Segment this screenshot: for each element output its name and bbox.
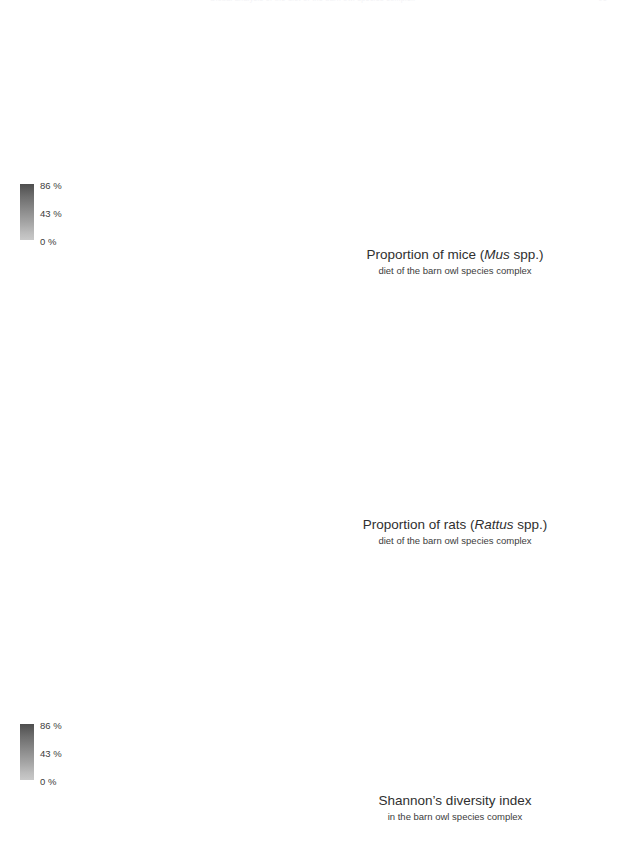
caption-title-genus: Rattus (475, 517, 514, 532)
caption-subtitle: diet of the barn owl species complex (295, 265, 615, 277)
caption-title: Proportion of rats (Rattus spp.) (295, 517, 615, 534)
caption-title: Proportion of mice (Mus spp.) (295, 247, 615, 264)
running-header: Global analysis of the diet of the barn … (0, 0, 625, 2)
page-folio: 91 (598, 0, 607, 2)
caption-title-genus: Mus (484, 247, 510, 262)
caption-title-suffix: spp.) (510, 247, 544, 262)
caption-title: Shannon’s diversity index (295, 793, 615, 810)
legend-tick-min: 0 % (40, 237, 56, 247)
figure-page: Global analysis of the diet of the barn … (0, 0, 625, 861)
caption-subtitle: diet of the barn owl species complex (295, 535, 615, 547)
caption-shannon: Shannon’s diversity index in the barn ow… (295, 793, 615, 823)
caption-rats: Proportion of rats (Rattus spp.) diet of… (295, 517, 615, 547)
world-map-mice (0, 25, 625, 275)
legend-tick-mid: 43 % (40, 209, 62, 219)
panel-shannon: 3.3 1.8 0.3 Shannon’s diversity index in… (0, 565, 625, 825)
legend-tick-max: 86 % (40, 181, 62, 191)
caption-title-prefix: Proportion of rats ( (363, 517, 475, 532)
world-map-rats (0, 295, 625, 545)
legend-gradient-bar (20, 184, 34, 240)
caption-title-prefix: Proportion of mice ( (366, 247, 484, 262)
world-map-shannon (0, 565, 625, 815)
caption-mice: Proportion of mice (Mus spp.) diet of th… (295, 247, 615, 277)
caption-subtitle: in the barn owl species complex (295, 811, 615, 823)
panel-mice: 86 % 43 % 0 % Proportion of mice (Mus sp… (0, 25, 625, 280)
panel-rats: 86 % 43 % 0 % Proportion of rats (Rattus… (0, 295, 625, 550)
caption-title-suffix: spp.) (514, 517, 548, 532)
caption-title-prefix: Shannon’s diversity index (379, 793, 532, 808)
running-header-title: Global analysis of the diet of the barn … (210, 0, 415, 2)
legend-mice: 86 % 43 % 0 % (20, 177, 90, 247)
